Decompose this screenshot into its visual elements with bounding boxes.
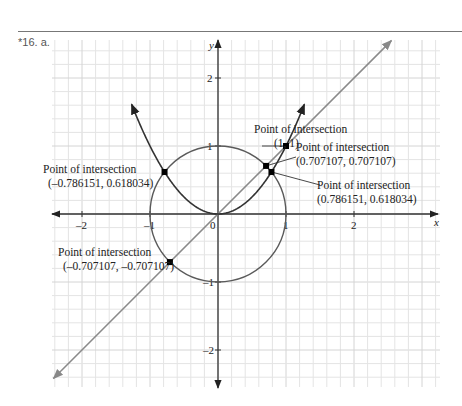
annotation-coords: (–0.786151, 0.618034)	[48, 177, 154, 190]
annotation-coords: (0.707107, 0.707107)	[296, 155, 396, 168]
annotation-title: Point of intersection	[317, 179, 411, 191]
intersection-plot: xy–2–2–1–111220Point of intersection(1, …	[0, 0, 462, 406]
annotation-title: Point of intersection	[58, 246, 152, 258]
x-tick-label: –2	[75, 219, 87, 231]
x-tick-label: 2	[351, 219, 357, 231]
intersection-point	[268, 169, 274, 175]
y-axis-label: y	[208, 39, 214, 51]
intersection-annotation: Point of intersection(–0.707107, –0.7071…	[58, 246, 174, 273]
annotation-title: Point of intersection	[296, 141, 390, 153]
annotation-coords: (–0.707107, –0.707107)	[63, 260, 174, 273]
x-axis-label: x	[433, 216, 439, 228]
annotation-coords: (0.786151, 0.618034)	[317, 193, 417, 206]
x-tick-label: –1	[143, 219, 155, 231]
y-tick-label: 2	[207, 72, 213, 84]
annotation-title: Point of intersection	[43, 163, 137, 175]
intersection-point	[263, 163, 269, 169]
intersection-annotation: Point of intersection(–0.786151, 0.61803…	[43, 163, 168, 190]
intersection-point	[162, 169, 168, 175]
y-tick-label: –2	[202, 344, 214, 356]
annotation-title: Point of intersection	[254, 123, 348, 135]
